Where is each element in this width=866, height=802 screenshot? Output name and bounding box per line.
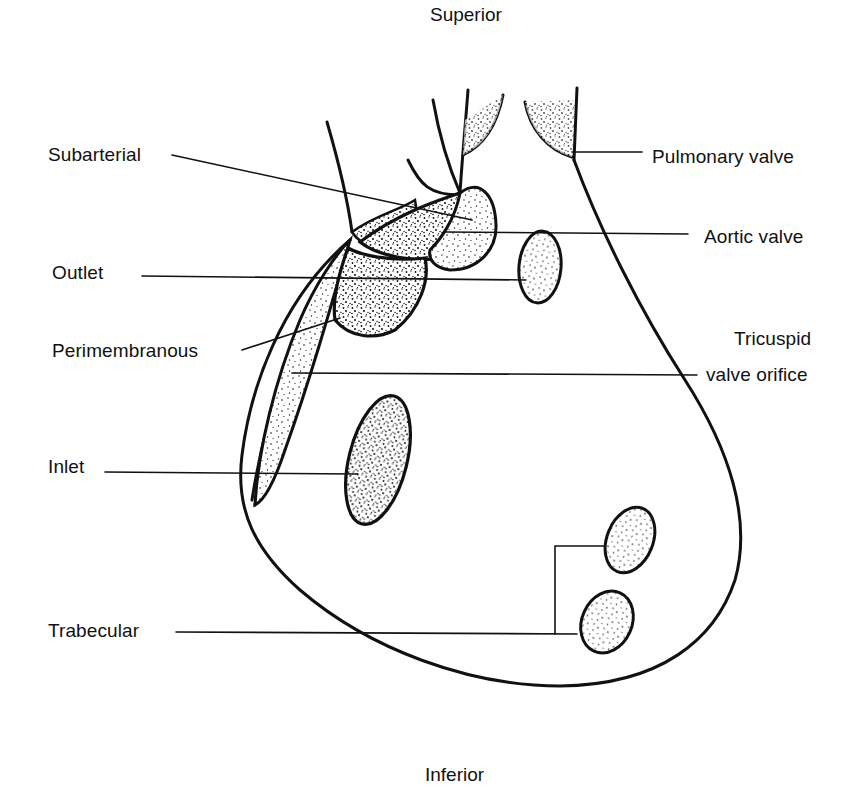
label-outlet: Outlet xyxy=(52,262,103,284)
inlet-defect xyxy=(334,389,422,531)
pulmonary-sinus-left-shade xyxy=(463,95,503,155)
pulmonary-trunk-left xyxy=(433,100,460,193)
label-trabecular: Trabecular xyxy=(48,620,139,642)
leader-tricuspid xyxy=(292,373,697,375)
trabecular-defect-upper xyxy=(596,500,664,580)
trabecular-defect-lower xyxy=(571,583,643,662)
leader-inlet xyxy=(105,472,358,474)
outlet-defect xyxy=(516,229,564,304)
label-inlet: Inlet xyxy=(48,456,84,478)
perimembranous-defect xyxy=(334,248,426,336)
pulmonary-right-wall xyxy=(574,88,577,160)
orientation-superior-label: Superior xyxy=(430,4,502,26)
orientation-inferior-label: Inferior xyxy=(425,764,484,786)
label-perimembranous: Perimembranous xyxy=(52,340,198,362)
label-aortic-valve: Aortic valve xyxy=(704,226,803,248)
pulmonary-sinus-right-shade xyxy=(525,100,577,157)
label-pulmonary-valve: Pulmonary valve xyxy=(652,146,794,168)
label-subarterial: Subarterial xyxy=(48,144,141,166)
label-tricuspid-line2: valve orifice xyxy=(706,364,808,386)
heart-ventricle-illustration xyxy=(0,0,866,802)
aortic-root-left-wall xyxy=(327,122,352,232)
diagram-canvas: Superior Inferior Subarterial Outlet Per… xyxy=(0,0,866,802)
leader-trabecular xyxy=(176,632,577,634)
label-tricuspid-line1: Tricuspid xyxy=(734,328,811,350)
